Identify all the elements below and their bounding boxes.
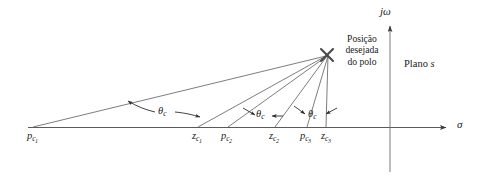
angle-vectors xyxy=(33,56,328,127)
point-label-zc3: zc3 xyxy=(321,130,331,144)
angle-label-theta-c-3: θc xyxy=(308,108,317,121)
caption-line-3: do polo xyxy=(336,56,388,67)
angle-label-theta-c-2: θc xyxy=(256,108,265,121)
angle-label-theta-c-1: θc xyxy=(158,105,167,118)
point-label-zc1: zc1 xyxy=(192,130,202,144)
diagram-canvas xyxy=(0,0,485,176)
point-label-pc2: pc2 xyxy=(221,130,232,144)
caption-line-1: Posição xyxy=(336,33,388,44)
desired-pole-caption: Posição desejada do polo xyxy=(336,33,388,67)
jomega-axis-label: jω xyxy=(380,6,391,18)
point-label-pc3: pc3 xyxy=(300,130,311,144)
plane-s-label: Plano s xyxy=(404,58,435,69)
plane-word: Plano xyxy=(404,58,431,69)
vector-from-zc3 xyxy=(326,56,328,127)
point-label-pc1: pc1 xyxy=(27,130,38,144)
root-locus-diagram: pc1 zc1 pc2 zc2 pc3 zc3 θc θc θc jω σ Po… xyxy=(0,0,485,176)
caption-line-2: desejada xyxy=(336,44,388,55)
point-label-zc2: zc2 xyxy=(269,130,279,144)
plane-symbol: s xyxy=(431,58,435,69)
sigma-axis-label: σ xyxy=(457,119,462,131)
